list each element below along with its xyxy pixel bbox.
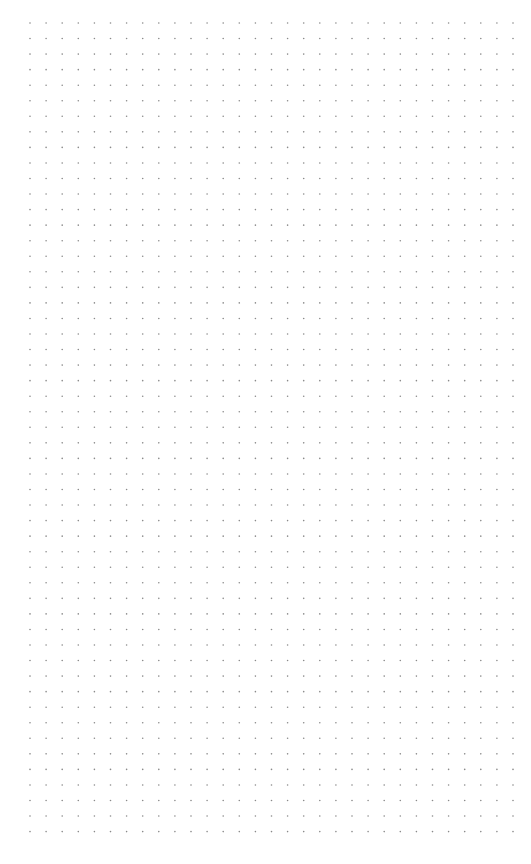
grid-dot xyxy=(29,22,31,24)
grid-dot xyxy=(190,738,192,740)
grid-dot xyxy=(206,489,208,491)
grid-dot xyxy=(94,271,96,273)
grid-dot xyxy=(222,255,224,257)
grid-dot xyxy=(45,473,47,475)
grid-dot xyxy=(303,116,305,118)
grid-dot xyxy=(110,784,112,786)
grid-dot xyxy=(174,566,176,568)
grid-dot xyxy=(480,815,482,817)
grid-dot xyxy=(496,800,498,802)
grid-dot xyxy=(480,333,482,335)
grid-dot xyxy=(239,520,241,522)
grid-dot xyxy=(190,769,192,771)
grid-dot xyxy=(319,131,321,133)
grid-dot xyxy=(174,193,176,195)
grid-dot xyxy=(480,240,482,242)
grid-dot xyxy=(110,769,112,771)
grid-dot xyxy=(383,271,385,273)
grid-dot xyxy=(303,69,305,71)
grid-dot xyxy=(158,738,160,740)
grid-dot xyxy=(400,629,402,631)
grid-dot xyxy=(239,800,241,802)
grid-dot xyxy=(94,333,96,335)
grid-dot xyxy=(142,364,144,366)
grid-dot xyxy=(255,473,257,475)
grid-dot xyxy=(94,582,96,584)
grid-dot xyxy=(255,287,257,289)
grid-dot xyxy=(432,287,434,289)
grid-dot xyxy=(400,722,402,724)
grid-dot xyxy=(271,458,273,460)
grid-dot xyxy=(383,22,385,24)
grid-dot xyxy=(239,442,241,444)
grid-dot xyxy=(110,706,112,708)
grid-dot xyxy=(303,209,305,211)
grid-dot xyxy=(174,613,176,615)
grid-dot xyxy=(94,193,96,195)
grid-dot xyxy=(512,240,514,242)
grid-dot xyxy=(287,660,289,662)
grid-dot xyxy=(383,473,385,475)
grid-dot xyxy=(271,240,273,242)
grid-dot xyxy=(335,644,337,646)
grid-dot xyxy=(206,629,208,631)
grid-dot xyxy=(367,738,369,740)
grid-dot xyxy=(335,582,337,584)
grid-dot xyxy=(351,784,353,786)
grid-dot xyxy=(190,224,192,226)
grid-dot xyxy=(94,69,96,71)
grid-dot xyxy=(383,100,385,102)
grid-dot xyxy=(45,629,47,631)
grid-dot xyxy=(239,675,241,677)
grid-dot xyxy=(78,255,80,257)
grid-dot xyxy=(448,178,450,180)
grid-dot xyxy=(383,53,385,55)
grid-dot xyxy=(351,582,353,584)
grid-dot xyxy=(142,784,144,786)
grid-dot xyxy=(448,209,450,211)
grid-dot xyxy=(94,551,96,553)
grid-dot xyxy=(464,535,466,537)
grid-dot xyxy=(383,349,385,351)
grid-dot xyxy=(512,629,514,631)
grid-dot xyxy=(222,473,224,475)
grid-dot xyxy=(464,411,466,413)
grid-dot xyxy=(319,520,321,522)
grid-dot xyxy=(400,318,402,320)
grid-dot xyxy=(303,458,305,460)
grid-dot xyxy=(45,738,47,740)
grid-dot xyxy=(400,442,402,444)
grid-dot xyxy=(45,442,47,444)
grid-dot xyxy=(319,458,321,460)
grid-dot xyxy=(400,209,402,211)
grid-dot xyxy=(126,458,128,460)
grid-dot xyxy=(512,147,514,149)
grid-dot xyxy=(351,380,353,382)
grid-dot xyxy=(432,318,434,320)
grid-dot xyxy=(206,660,208,662)
grid-dot xyxy=(416,209,418,211)
grid-dot xyxy=(142,318,144,320)
grid-dot xyxy=(271,84,273,86)
grid-dot xyxy=(319,613,321,615)
grid-dot xyxy=(319,53,321,55)
grid-dot xyxy=(142,193,144,195)
grid-dot xyxy=(303,255,305,257)
grid-dot xyxy=(512,287,514,289)
grid-dot xyxy=(206,349,208,351)
grid-dot xyxy=(29,395,31,397)
grid-dot xyxy=(142,722,144,724)
grid-dot xyxy=(335,38,337,40)
grid-dot xyxy=(29,38,31,40)
grid-dot xyxy=(303,784,305,786)
grid-dot xyxy=(383,458,385,460)
grid-dot xyxy=(480,100,482,102)
grid-dot xyxy=(239,613,241,615)
grid-dot xyxy=(239,364,241,366)
grid-dot xyxy=(94,660,96,662)
grid-dot xyxy=(512,582,514,584)
grid-dot xyxy=(222,318,224,320)
grid-dot xyxy=(110,162,112,164)
grid-dot xyxy=(400,691,402,693)
grid-dot xyxy=(255,116,257,118)
